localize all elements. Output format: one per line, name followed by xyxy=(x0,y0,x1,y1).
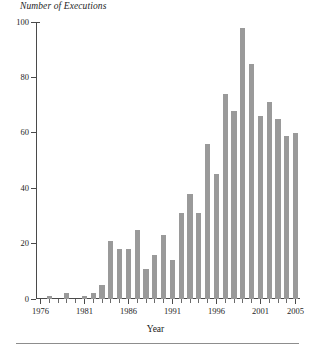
x-axis-tick xyxy=(49,299,50,303)
x-axis-tick xyxy=(190,299,191,303)
x-axis-tick xyxy=(260,299,261,304)
x-axis-tick xyxy=(216,299,217,304)
plot-area xyxy=(36,22,300,299)
x-axis-tick xyxy=(93,299,94,303)
bar xyxy=(249,64,254,299)
bar xyxy=(223,94,228,299)
bar xyxy=(143,269,148,299)
bar xyxy=(126,249,131,299)
x-axis-tick xyxy=(40,299,41,304)
bar xyxy=(187,194,192,299)
x-axis-tick xyxy=(58,299,59,303)
x-axis-tick xyxy=(242,299,243,303)
bar xyxy=(275,119,280,299)
x-axis-tick xyxy=(234,299,235,303)
x-axis-tick xyxy=(225,299,226,303)
x-axis-tick xyxy=(251,299,252,303)
execution-bar-chart: Number of Executions 020406080100 197619… xyxy=(0,0,311,351)
x-axis-tick-label: 2001 xyxy=(252,307,269,316)
x-axis-tick-label: 2005 xyxy=(287,307,304,316)
x-axis-tick xyxy=(172,299,173,304)
x-axis-tick-label: 1981 xyxy=(76,307,93,316)
x-axis-tick xyxy=(181,299,182,303)
x-axis-tick xyxy=(119,299,120,303)
y-axis-tick-label: 100 xyxy=(16,18,29,27)
bar xyxy=(231,111,236,299)
bar xyxy=(117,249,122,299)
bar xyxy=(161,235,166,299)
chart-x-axis-title: Year xyxy=(0,324,311,334)
bar xyxy=(64,293,69,299)
chart-y-axis-title: Number of Executions xyxy=(20,1,106,11)
y-axis-tick-label: 0 xyxy=(25,295,29,304)
x-axis-tick-label: 1991 xyxy=(164,307,181,316)
x-axis-tick xyxy=(128,299,129,304)
footer-divider xyxy=(16,343,299,344)
x-axis-tick-label: 1976 xyxy=(32,307,49,316)
x-axis-tick xyxy=(163,299,164,303)
bar xyxy=(284,136,289,299)
y-axis-tick-label: 80 xyxy=(21,73,30,82)
bar xyxy=(91,293,96,299)
x-axis-tick xyxy=(295,299,296,304)
x-axis-tick xyxy=(66,299,67,303)
bar xyxy=(293,133,298,299)
bar xyxy=(99,285,104,299)
x-axis-tick xyxy=(84,299,85,304)
y-axis-tick-label: 60 xyxy=(21,128,30,137)
bar xyxy=(152,255,157,299)
y-axis-tick-label: 20 xyxy=(21,239,30,248)
bar xyxy=(135,230,140,299)
x-axis-tick xyxy=(154,299,155,303)
x-axis-tick xyxy=(137,299,138,303)
bar xyxy=(196,213,201,299)
bar xyxy=(108,241,113,299)
bar xyxy=(214,174,219,299)
x-axis-tick xyxy=(102,299,103,303)
x-axis-tick xyxy=(269,299,270,303)
bar xyxy=(170,260,175,299)
x-axis-tick-label: 1996 xyxy=(208,307,225,316)
bar xyxy=(240,28,245,299)
x-axis-tick xyxy=(207,299,208,303)
x-axis-tick xyxy=(198,299,199,303)
x-axis-tick xyxy=(75,299,76,303)
x-axis-tick xyxy=(286,299,287,303)
y-axis-tick-label: 40 xyxy=(21,184,30,193)
x-axis-tick-label: 1986 xyxy=(120,307,137,316)
x-axis-tick xyxy=(110,299,111,303)
bar xyxy=(179,213,184,299)
bar xyxy=(82,296,87,299)
x-axis-tick xyxy=(146,299,147,303)
bar xyxy=(258,116,263,299)
bar xyxy=(47,296,52,299)
x-axis-tick xyxy=(278,299,279,303)
bar xyxy=(267,102,272,299)
bar xyxy=(205,144,210,299)
